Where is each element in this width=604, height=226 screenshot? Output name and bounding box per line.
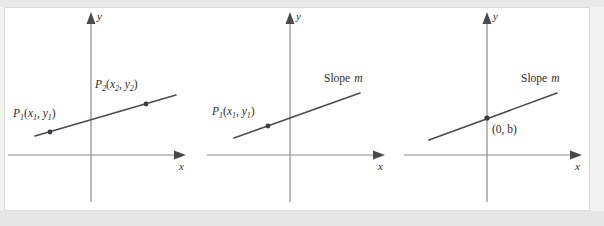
- label-slope: Slopem: [324, 72, 363, 85]
- x-axis-label: x: [574, 160, 580, 172]
- panel-container: y x P1(x1, y1) P2(x2, y2): [0, 0, 604, 226]
- point-y-intercept: [484, 115, 489, 120]
- x-axis: [404, 151, 582, 160]
- x-axis: [207, 151, 385, 160]
- graph-line: [35, 95, 176, 136]
- label-point-p1: P1(x1, y1): [12, 107, 56, 122]
- point-p1: [48, 130, 53, 135]
- x-axis: [8, 151, 186, 160]
- y-axis: [286, 12, 295, 202]
- panel-two-points: y x P1(x1, y1) P2(x2, y2): [0, 0, 202, 226]
- panel-slope-intercept: y x (0, b) Slopem: [396, 0, 598, 226]
- label-slope: Slopem: [521, 72, 560, 85]
- label-y-intercept: (0, b): [492, 123, 517, 136]
- panel-point-slope: y x P1(x1, y1) Slopem: [199, 0, 401, 226]
- point-p1: [266, 124, 271, 129]
- figure-root: y x P1(x1, y1) P2(x2, y2): [0, 0, 604, 226]
- x-axis-label: x: [377, 160, 383, 172]
- point-p2: [144, 102, 149, 107]
- y-axis-label: y: [295, 10, 301, 22]
- y-axis-label: y: [492, 10, 498, 22]
- x-axis-label: x: [178, 160, 184, 172]
- y-axis-label: y: [96, 10, 102, 22]
- label-point-p2: P2(x2, y2): [94, 78, 138, 93]
- y-axis: [87, 12, 96, 202]
- label-point-p1: P1(x1, y1): [211, 105, 255, 120]
- y-axis: [483, 12, 492, 202]
